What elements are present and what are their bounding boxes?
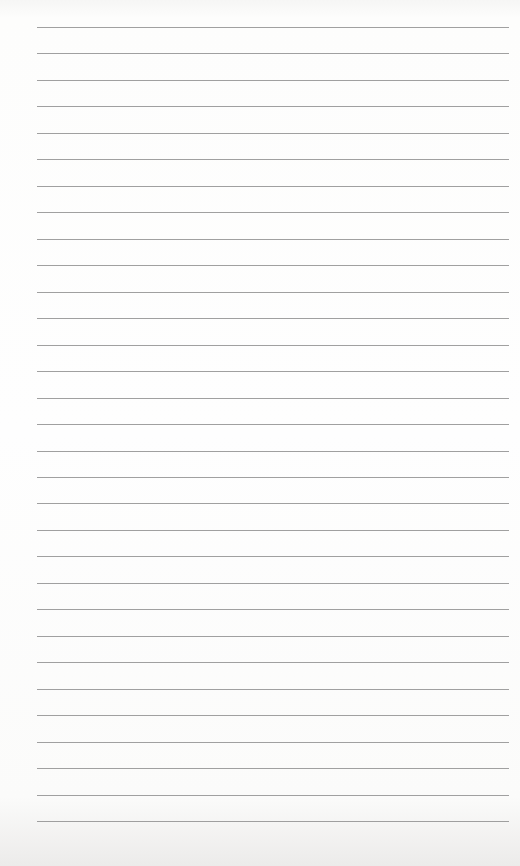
ruled-line [37, 742, 509, 743]
ruled-line [37, 80, 509, 81]
ruled-line [37, 715, 509, 716]
ruled-line [37, 159, 509, 160]
ruled-line [37, 795, 509, 796]
ruled-line [37, 662, 509, 663]
ruled-line [37, 292, 509, 293]
ruled-line [37, 318, 509, 319]
ruled-line [37, 636, 509, 637]
ruled-line [37, 530, 509, 531]
ruled-line [37, 398, 509, 399]
ruled-line [37, 609, 509, 610]
ruled-line [37, 583, 509, 584]
ruled-line [37, 27, 509, 28]
ruled-line [37, 424, 509, 425]
ruled-line [37, 689, 509, 690]
ruled-line [37, 821, 509, 822]
ruled-line [37, 106, 509, 107]
ruled-line [37, 345, 509, 346]
ruled-line [37, 768, 509, 769]
ruled-line [37, 371, 509, 372]
ruled-line [37, 556, 509, 557]
ruled-line [37, 503, 509, 504]
ruled-line [37, 451, 509, 452]
ruled-line [37, 239, 509, 240]
ruled-line [37, 265, 509, 266]
ruled-line [37, 53, 509, 54]
ruled-line [37, 477, 509, 478]
ruled-line [37, 186, 509, 187]
lined-paper-sheet [0, 0, 520, 866]
ruled-line [37, 133, 509, 134]
ruled-line [37, 212, 509, 213]
